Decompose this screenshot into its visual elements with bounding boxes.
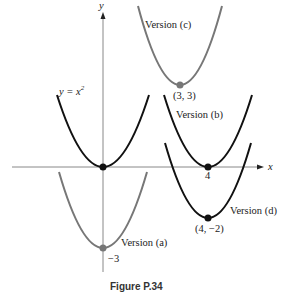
- base-curve-label-text: y = x: [58, 86, 81, 97]
- vertex-c-dot: [177, 82, 184, 89]
- y-axis-label: y: [98, 0, 104, 11]
- version-b-label: Version (b): [176, 109, 223, 121]
- x-axis-label: x: [267, 161, 273, 172]
- base-curve-label: y = x2: [58, 84, 85, 97]
- curve-version-b: [164, 95, 252, 167]
- vertex-c-label: (3, 3): [173, 90, 196, 102]
- x-axis-arrow-icon: [257, 165, 264, 170]
- version-a-label: Version (a): [121, 237, 168, 249]
- version-d-label: Version (d): [230, 205, 277, 217]
- vertex-base-dot: [100, 164, 107, 171]
- base-curve-exponent: 2: [81, 84, 85, 92]
- vertex-b-label: 4: [205, 170, 211, 181]
- version-c-label: Version (c): [145, 19, 192, 31]
- figure-caption: Figure P.34: [110, 281, 163, 292]
- vertex-d-dot: [205, 215, 212, 222]
- y-axis-arrow-icon: [101, 12, 106, 19]
- vertex-d-label: (4, −2): [195, 223, 224, 235]
- vertex-a-label: −3: [108, 253, 119, 264]
- curve-version-c: [138, 6, 222, 85]
- figure-canvas: y x y = x2 Version (c) (3, 3) Version (b…: [0, 0, 281, 299]
- vertex-a-dot: [100, 245, 107, 252]
